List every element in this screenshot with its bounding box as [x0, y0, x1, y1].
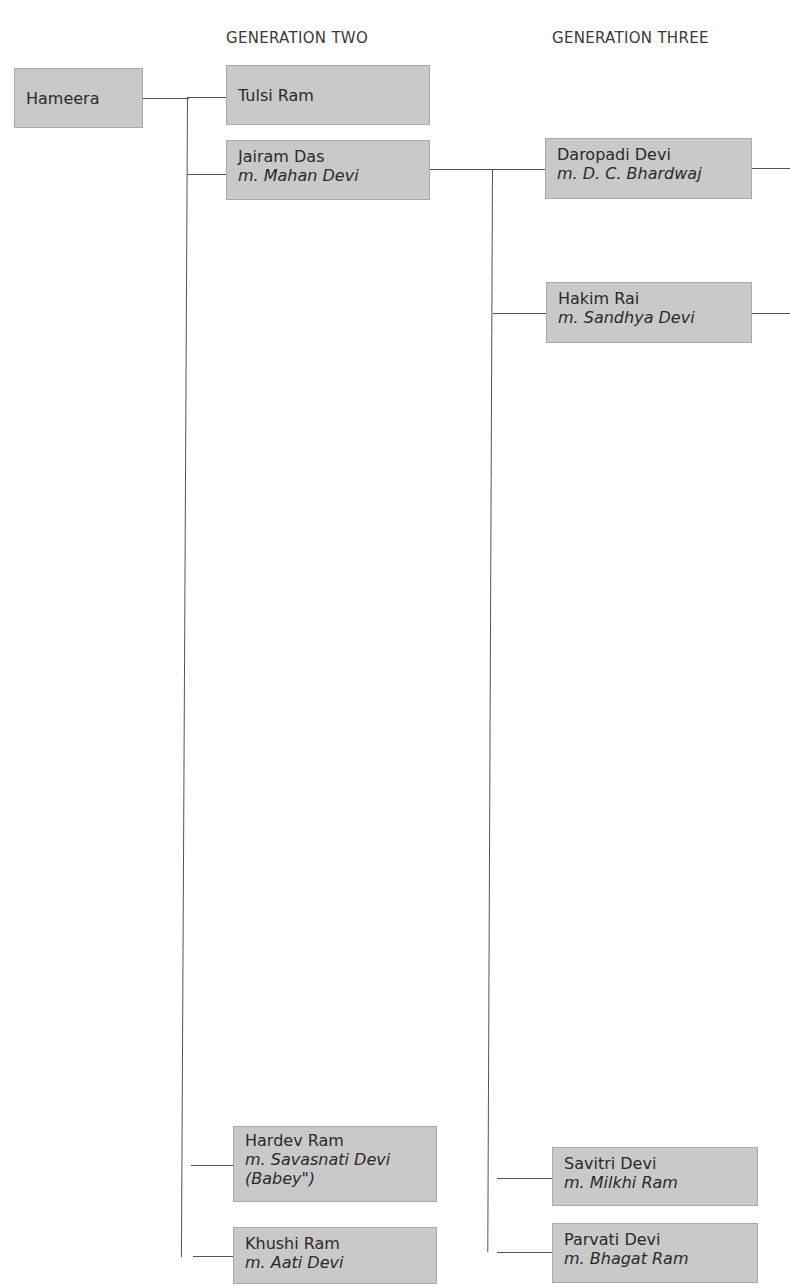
person-spouse: m. Sandhya Devi [558, 308, 741, 327]
connector-line [187, 174, 226, 175]
generation-three-header: GENERATION THREE [552, 29, 709, 47]
person-name: Khushi Ram [245, 1234, 426, 1253]
person-name: Hameera [26, 89, 100, 108]
person-spouse: m. Bhagat Ram [564, 1249, 747, 1268]
person-daropadi-devi[interactable]: Daropadi Devi m. D. C. Bhardwaj [545, 138, 752, 199]
connector-line [430, 169, 492, 170]
connector-line [193, 1256, 233, 1257]
person-name: Jairam Das [238, 147, 419, 166]
person-name: Hakim Rai [558, 289, 741, 308]
person-hakim-rai[interactable]: Hakim Rai m. Sandhya Devi [546, 282, 752, 343]
person-spouse: m. Savasnati Devi [245, 1150, 426, 1169]
connector-line [492, 169, 545, 170]
connector-line-continuation [752, 313, 790, 314]
person-spouse: m. Milkhi Ram [564, 1173, 747, 1192]
person-spouse: m. Mahan Devi [238, 166, 419, 185]
person-name: Savitri Devi [564, 1154, 747, 1173]
connector-line [497, 1178, 552, 1179]
connector-line [493, 313, 546, 314]
person-khushi-ram[interactable]: Khushi Ram m. Aati Devi [233, 1227, 437, 1284]
generation-two-header: GENERATION TWO [226, 29, 368, 47]
person-nickname: (Babey") [245, 1169, 426, 1188]
person-name: Tulsi Ram [238, 86, 314, 105]
person-name: Parvati Devi [564, 1230, 747, 1249]
person-jairam-das[interactable]: Jairam Das m. Mahan Devi [226, 140, 430, 200]
person-hameera[interactable]: Hameera [14, 68, 143, 128]
person-name: Daropadi Devi [557, 145, 741, 164]
person-spouse: m. Aati Devi [245, 1253, 426, 1272]
connector-line [191, 1165, 233, 1166]
generation-two-trunk-line [181, 97, 188, 1257]
generation-three-trunk-line [487, 169, 493, 1252]
person-name: Hardev Ram [245, 1131, 426, 1150]
connector-line [187, 97, 226, 98]
person-parvati-devi[interactable]: Parvati Devi m. Bhagat Ram [552, 1223, 758, 1283]
connector-line-continuation [752, 168, 790, 169]
person-savitri-devi[interactable]: Savitri Devi m. Milkhi Ram [552, 1147, 758, 1206]
person-tulsi-ram[interactable]: Tulsi Ram [226, 65, 430, 125]
person-spouse: m. D. C. Bhardwaj [557, 164, 741, 183]
connector-line [143, 98, 189, 99]
person-hardev-ram[interactable]: Hardev Ram m. Savasnati Devi (Babey") [233, 1126, 437, 1202]
connector-line [497, 1252, 552, 1253]
